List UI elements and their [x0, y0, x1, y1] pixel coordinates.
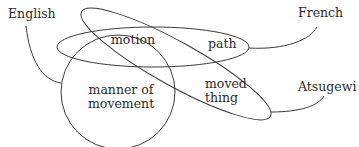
- moved-thing-line-2: thing: [205, 91, 247, 105]
- semantic-conflation-diagram: English French Atsugewi motion path move…: [0, 0, 359, 147]
- manner-line-1: manner of: [88, 83, 154, 97]
- atsugewi-label: Atsugewi: [298, 80, 356, 94]
- atsugewi-connector-line: [271, 96, 324, 112]
- diagram-shapes: [0, 0, 359, 147]
- english-label: English: [8, 7, 56, 21]
- french-connector-line: [249, 27, 317, 48]
- moved-thing-line-1: moved: [205, 77, 247, 91]
- motion-moved-thing-ellipse: [71, 0, 281, 136]
- english-connector-line: [26, 26, 61, 83]
- motion-label: motion: [111, 33, 155, 47]
- manner-of-movement-label: manner of movement: [88, 83, 154, 111]
- manner-line-2: movement: [88, 97, 154, 111]
- path-label: path: [208, 37, 237, 51]
- moved-thing-label: moved thing: [205, 77, 247, 105]
- french-label: French: [298, 6, 343, 20]
